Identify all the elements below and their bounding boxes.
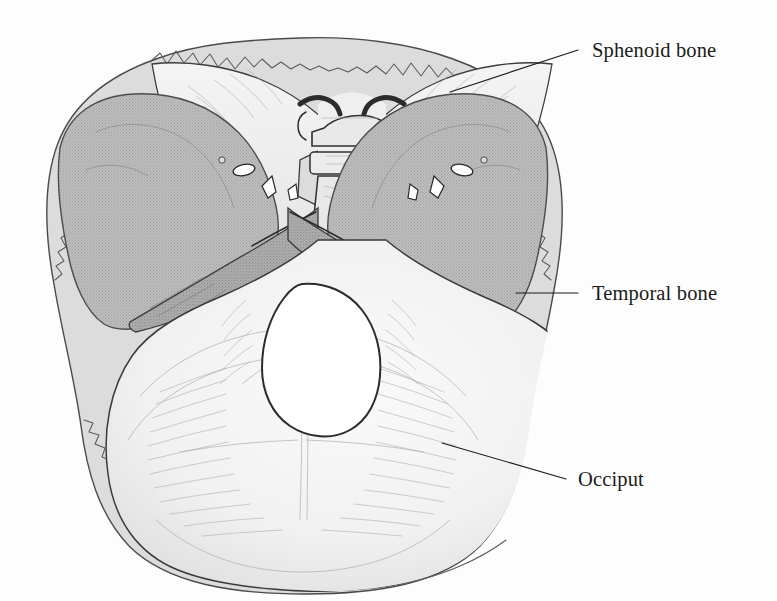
label-occiput: Occiput <box>578 468 644 491</box>
skull-base-illustration: Sphenoid bone Temporal bone Occiput <box>0 0 777 601</box>
figure-root: Sphenoid bone Temporal bone Occiput <box>0 0 777 601</box>
label-sphenoid-bone: Sphenoid bone <box>592 39 716 62</box>
label-temporal-bone: Temporal bone <box>592 282 717 305</box>
